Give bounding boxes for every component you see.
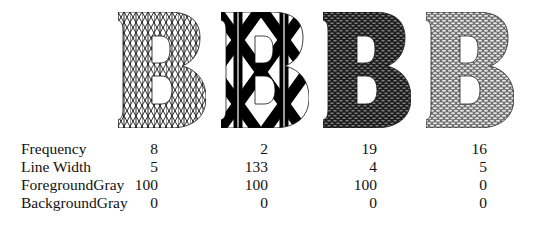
cell-value: 0 <box>447 194 487 212</box>
row-label: BackgroundGray <box>21 194 128 212</box>
cell-value: 0 <box>447 176 487 194</box>
cell-value: 8 <box>118 140 158 158</box>
cell-value: 5 <box>447 158 487 176</box>
row-label: Frequency <box>21 140 86 158</box>
letter-b-triangular-crosshatch-fine-icon <box>118 12 206 128</box>
cell-value: 16 <box>447 140 487 158</box>
table-row-foreground-gray: ForegroundGray 100 100 100 0 <box>0 176 533 194</box>
cell-value: 133 <box>228 158 268 176</box>
letter-b-dense-light-weave-icon <box>426 12 514 128</box>
parameter-table: Frequency 8 2 19 16 Line Width 5 133 4 5… <box>0 140 533 212</box>
cell-value: 4 <box>337 158 377 176</box>
cell-value: 19 <box>337 140 377 158</box>
letter-b-dense-dark-weave-icon <box>323 12 411 128</box>
cell-value: 2 <box>228 140 268 158</box>
row-label: ForegroundGray <box>21 176 124 194</box>
table-row-line-width: Line Width 5 133 4 5 <box>0 158 533 176</box>
cell-value: 0 <box>228 194 268 212</box>
row-label: Line Width <box>21 158 91 176</box>
cell-value: 0 <box>118 194 158 212</box>
cell-value: 100 <box>228 176 268 194</box>
cell-value: 100 <box>118 176 158 194</box>
letter-b-triangular-crosshatch-bold-icon <box>221 12 309 128</box>
cell-value: 0 <box>337 194 377 212</box>
cell-value: 100 <box>337 176 377 194</box>
pattern-glyph-row <box>0 0 533 135</box>
table-row-frequency: Frequency 8 2 19 16 <box>0 140 533 158</box>
table-row-background-gray: BackgroundGray 0 0 0 0 <box>0 194 533 212</box>
cell-value: 5 <box>118 158 158 176</box>
